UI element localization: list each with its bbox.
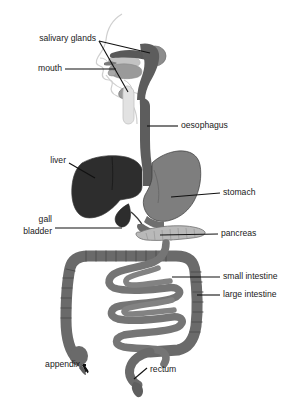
gall-bladder <box>113 201 135 229</box>
anatomy-illustration: salivary glands mouth oesophagus liver s… <box>0 0 304 402</box>
label-small-intestine: small intestine <box>223 271 278 281</box>
label-liver: liver <box>50 155 66 165</box>
label-rectum: rectum <box>150 364 176 374</box>
label-mouth: mouth <box>38 63 62 73</box>
digestive-system-diagram: salivary glands mouth oesophagus liver s… <box>0 0 304 402</box>
label-pancreas: pancreas <box>221 228 256 238</box>
sublingual-salivary-gland <box>108 70 116 76</box>
label-large-intestine: large intestine <box>223 289 277 299</box>
label-oesophagus: oesophagus <box>181 120 228 130</box>
label-appendix: appendix <box>45 359 81 369</box>
leader-rectum <box>134 368 147 379</box>
stomach-group <box>143 151 200 229</box>
liver-group <box>72 156 142 218</box>
stomach <box>143 151 200 222</box>
label-stomach: stomach <box>223 187 256 197</box>
bile-duct <box>131 212 143 226</box>
label-salivary-glands: salivary glands <box>39 33 96 43</box>
label-bladder: bladder <box>23 226 52 236</box>
label-gall: gall <box>39 214 52 224</box>
trachea <box>123 86 134 124</box>
liver <box>72 156 142 218</box>
